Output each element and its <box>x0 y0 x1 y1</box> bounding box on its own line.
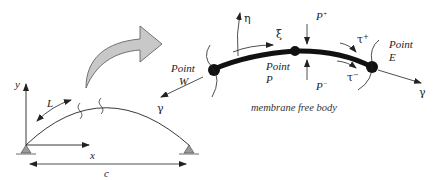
left-support-icon <box>16 145 36 154</box>
arch-curve <box>26 108 190 146</box>
point-e-label-1: Point <box>388 38 414 50</box>
caption: membrane free body <box>251 102 337 113</box>
length-label: L <box>46 97 53 109</box>
xi-arrow <box>233 45 273 52</box>
break-mark-2 <box>99 98 103 114</box>
point-p-label-2: P <box>265 73 273 85</box>
x-axis-label: x <box>89 149 95 161</box>
point-w-label-2: W <box>179 75 189 87</box>
y-axis-label: y <box>14 78 20 90</box>
tau-plus-arrow <box>340 43 356 52</box>
xi-label: ξ <box>276 28 282 41</box>
node-point-p <box>290 46 300 56</box>
point-w-label-1: Point <box>170 62 196 74</box>
zoom-transition-arrow-icon <box>86 26 162 88</box>
gamma-right-arrow <box>378 70 421 83</box>
gamma-right-label: γ <box>419 86 426 99</box>
p-plus-label: P+ <box>315 10 328 22</box>
length-arrow <box>37 100 71 121</box>
arch-figure: y x L γ c <box>14 78 199 179</box>
membrane-diagram: y x L γ c <box>0 0 436 180</box>
point-e-label-2: E <box>388 51 396 63</box>
point-p-label-1: Point <box>265 60 291 72</box>
p-minus-label: P− <box>315 80 328 92</box>
free-body-figure: Point W γ η ξ Point P P+ P− τ+ τ− Point … <box>161 10 426 113</box>
tau-plus-label: τ+ <box>357 33 369 46</box>
tau-minus-label: τ− <box>347 71 359 84</box>
tau-minus-arrow <box>337 61 356 68</box>
right-support-icon <box>179 145 199 154</box>
span-label: c <box>104 167 109 179</box>
eta-label: η <box>244 12 251 25</box>
arch-gamma-label: γ <box>157 102 164 115</box>
